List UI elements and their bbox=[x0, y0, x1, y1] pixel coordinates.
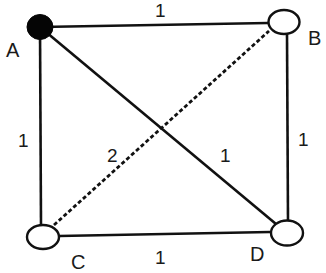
edge-b-d-weight: 1 bbox=[298, 130, 309, 149]
edge-a-d bbox=[40, 27, 276, 224]
edge-a-c bbox=[40, 27, 41, 226]
edge-a-d-weight: 1 bbox=[220, 146, 231, 165]
node-d bbox=[271, 221, 303, 246]
edge-b-d bbox=[287, 34, 288, 222]
node-a-label: A bbox=[6, 40, 19, 60]
node-b-label: B bbox=[308, 28, 321, 48]
edge-a-c-weight: 1 bbox=[18, 131, 29, 150]
node-a bbox=[27, 15, 53, 40]
node-c bbox=[27, 225, 59, 249]
edge-a-b-weight: 1 bbox=[155, 1, 166, 20]
edge-c-d-weight: 1 bbox=[155, 248, 166, 267]
edge-c-b-weight: 2 bbox=[107, 146, 118, 165]
edge-c-d bbox=[59, 232, 270, 236]
node-d-label: D bbox=[250, 244, 264, 264]
node-c-label: C bbox=[71, 252, 85, 272]
edge-c-b-dashed bbox=[54, 31, 269, 225]
node-b bbox=[269, 10, 300, 34]
edge-a-b bbox=[40, 23, 268, 27]
